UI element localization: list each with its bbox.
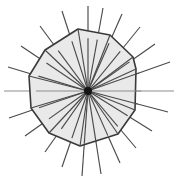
center-point-dot [84,87,92,95]
radial-polygon-diagram [0,0,176,180]
figure-root [0,0,176,180]
